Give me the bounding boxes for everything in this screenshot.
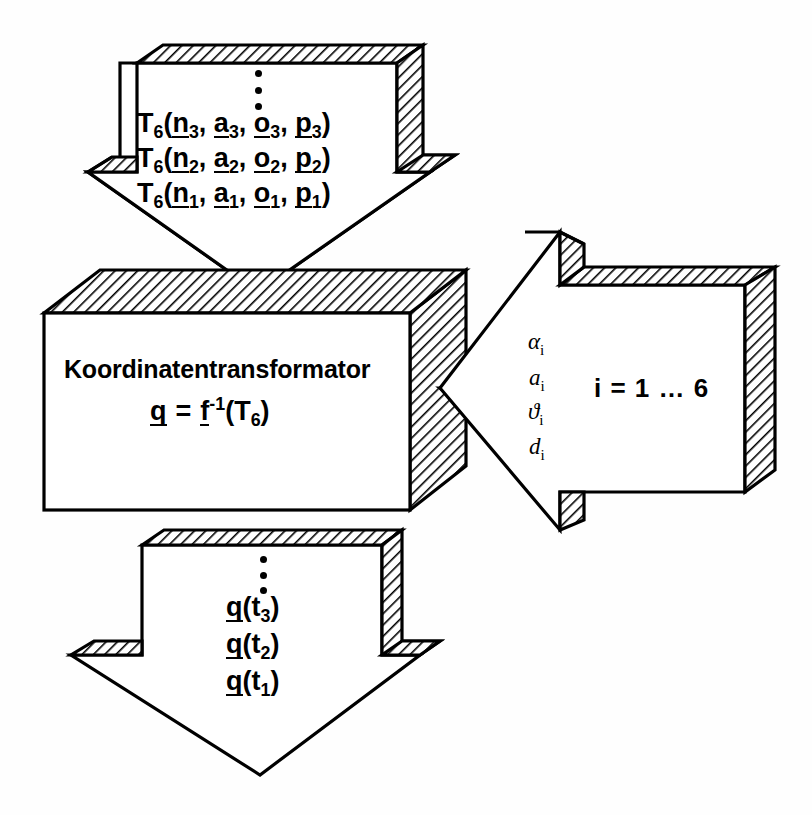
input-line3-sep2: , [239, 108, 254, 138]
input-line2-sep1: , [199, 143, 214, 173]
input-arrow-line-1: T6(n1, a1, o1, p1) [137, 180, 331, 208]
output-line3-open: ( [243, 592, 252, 622]
input-line3-fn-sub: 6 [154, 122, 164, 142]
equation-open-paren: ( [225, 396, 234, 426]
input-line1-v2-sub: 1 [229, 192, 239, 212]
input-line2-sep2: , [239, 143, 254, 173]
output-arrow-line-1: q(t1) [226, 668, 279, 696]
input-line3-v2-sub: 3 [229, 122, 239, 142]
output-line2-vec: q [226, 632, 243, 659]
parameter-range-label: i = 1 … 6 [594, 375, 709, 401]
diagram-canvas: T6(n3, a3, o3, p3) T6(n2, a2, o2, p2) T6… [0, 0, 812, 815]
input-line3-close: ) [322, 108, 331, 138]
equation-close-paren: ) [261, 396, 270, 426]
input-line1-v2: a [214, 181, 229, 208]
parameter-a-index: i [541, 377, 545, 394]
input-line3-sep3: , [280, 108, 295, 138]
equation-arg: T [234, 396, 251, 426]
diagram-vector-graphics [0, 0, 812, 815]
input-line1-fn: T [137, 178, 154, 208]
input-line3-v3-sub: 3 [270, 122, 280, 142]
input-line2-v3: o [254, 146, 271, 173]
equation-lhs-vector: q [150, 399, 167, 426]
parameter-alpha: αi [528, 330, 544, 353]
input-line1-sep1: , [199, 178, 214, 208]
output-line3-arg-sub: 3 [261, 606, 271, 626]
output-arrow-ellipsis-icon [259, 556, 267, 594]
parameter-theta-index: i [539, 411, 543, 428]
input-line1-v4: p [295, 181, 312, 208]
central-block-shape [44, 270, 466, 510]
output-arrow-line-2: q(t2) [226, 631, 279, 659]
equation-fn-vector: f [200, 399, 209, 426]
output-arrow-line-3: q(t3) [226, 594, 279, 622]
output-line2-open: ( [243, 629, 252, 659]
input-line3-v4-sub: 3 [312, 122, 322, 142]
output-line3-arg: t [252, 592, 261, 622]
input-line2-v4-sub: 2 [312, 157, 322, 177]
input-line2-v1: n [172, 146, 189, 173]
output-line2-close: ) [270, 629, 279, 659]
input-line1-v3-sub: 1 [270, 192, 280, 212]
input-line3-sep1: , [199, 108, 214, 138]
block-title: Koordinatentransformator [64, 357, 370, 382]
input-line2-v4: p [295, 146, 312, 173]
input-line1-close: ) [322, 178, 331, 208]
input-line1-sep2: , [239, 178, 254, 208]
input-line3-v1: n [172, 111, 189, 138]
input-line2-v1-sub: 2 [189, 157, 199, 177]
input-line2-fn: T [137, 143, 154, 173]
output-line1-arg-sub: 1 [261, 680, 271, 700]
output-line1-arg: t [252, 666, 261, 696]
input-line1-v1-sub: 1 [189, 192, 199, 212]
output-line1-vec: q [226, 669, 243, 696]
input-line2-v3-sub: 2 [270, 157, 280, 177]
output-line3-close: ) [270, 592, 279, 622]
input-arrow-ellipsis-icon [254, 70, 262, 110]
parameter-a: ai [529, 366, 545, 389]
input-line2-fn-sub: 6 [154, 157, 164, 177]
parameter-a-symbol: a [529, 365, 541, 390]
input-line2-open: ( [163, 143, 172, 173]
input-line3-v4: p [295, 111, 312, 138]
input-line2-sep3: , [280, 143, 295, 173]
input-line1-fn-sub: 6 [154, 192, 164, 212]
equation-exponent: -1 [209, 394, 225, 414]
input-line1-v4-sub: 1 [312, 192, 322, 212]
input-line1-v1: n [172, 181, 189, 208]
input-line2-v2-sub: 2 [229, 157, 239, 177]
input-arrow-line-2: T6(n2, a2, o2, p2) [137, 145, 331, 173]
input-arrow-line-3: T6(n3, a3, o3, p3) [137, 110, 331, 138]
output-line1-open: ( [243, 666, 252, 696]
input-line3-v2: a [214, 111, 229, 138]
input-line2-v2: a [214, 146, 229, 173]
parameter-alpha-symbol: α [528, 329, 540, 354]
output-line2-arg: t [252, 629, 261, 659]
input-line2-close: ) [322, 143, 331, 173]
output-line1-close: ) [270, 666, 279, 696]
input-line1-v3: o [254, 181, 271, 208]
parameter-theta: ϑi [528, 400, 544, 423]
output-line3-vec: q [226, 595, 243, 622]
parameter-alpha-index: i [540, 341, 544, 358]
output-line2-arg-sub: 2 [261, 643, 271, 663]
parameter-theta-symbol: ϑ [528, 399, 539, 424]
input-line3-v1-sub: 3 [189, 122, 199, 142]
input-line3-fn: T [137, 108, 154, 138]
parameter-d-index: i [541, 446, 545, 463]
parameter-d-symbol: d [529, 434, 541, 459]
parameter-d: di [529, 435, 545, 458]
input-line3-v3: o [254, 111, 271, 138]
input-line3-open: ( [163, 108, 172, 138]
equation-equals: = [176, 396, 192, 426]
input-line1-sep3: , [280, 178, 295, 208]
equation-arg-sub: 6 [251, 410, 261, 430]
input-line1-open: ( [163, 178, 172, 208]
block-equation: q=f-1(T6) [150, 398, 270, 426]
